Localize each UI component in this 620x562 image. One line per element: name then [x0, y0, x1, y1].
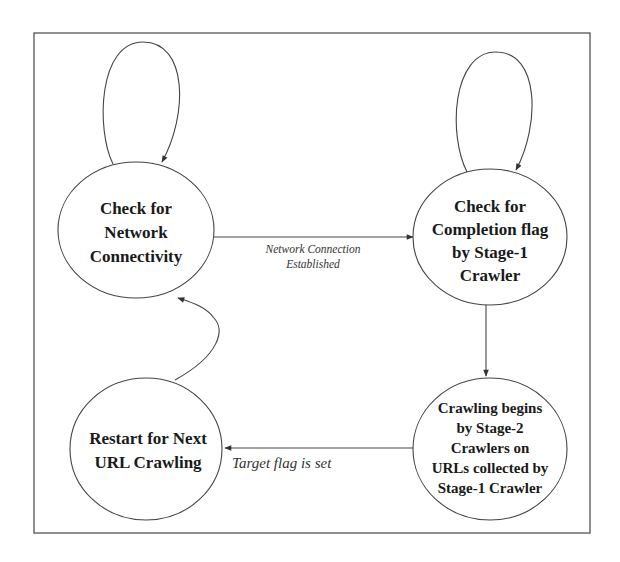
self-loop-arrow-check-network — [103, 42, 179, 164]
node-label-line: Connectivity — [90, 247, 183, 266]
node-label-line: Stage-1 Crawler — [438, 480, 543, 496]
node-label-line: URL Crawling — [94, 453, 202, 472]
edge-label-line: Established — [285, 258, 340, 270]
node-label-line: Completion flag — [432, 220, 549, 239]
state-node-check-completion: Check for Completion flag by Stage-1 Cra… — [413, 169, 567, 305]
node-label-line: Network — [104, 223, 168, 242]
self-loop-arrow-check-completion — [456, 52, 532, 172]
edge-label-line: Network Connection — [265, 243, 361, 255]
state-node-check-network: Check for Network Connectivity — [58, 162, 214, 298]
node-label-line: Crawler — [460, 266, 521, 285]
node-label-line: by Stage-1 — [452, 243, 528, 262]
node-label-line: Restart for Next — [89, 429, 207, 448]
state-diagram: Check for Network Connectivity Network C… — [0, 0, 620, 562]
state-node-crawling-begins: Crawling begins by Stage-2 Crawlers on U… — [413, 378, 567, 520]
node-label-line: Crawling begins — [438, 400, 543, 416]
state-node-restart: Restart for Next URL Crawling — [70, 378, 222, 520]
node-label-line: Check for — [454, 197, 527, 216]
node-label-line: Check for — [100, 199, 173, 218]
node-label-line: Crawlers on — [451, 440, 530, 456]
node-label-line: URLs collected by — [432, 460, 549, 476]
edge-label-line: Target flag is set — [232, 455, 332, 471]
transition-arrow-restart-to-network — [175, 298, 219, 380]
node-label-line: by Stage-2 — [456, 420, 523, 436]
